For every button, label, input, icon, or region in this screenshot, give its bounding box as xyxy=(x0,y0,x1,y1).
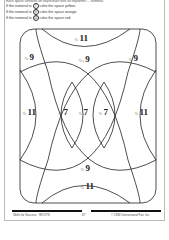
label-center-right-7: ·⅓·7 xyxy=(98,108,108,116)
footer-right: © 1992 Instructional Fair, Inc. xyxy=(111,213,150,217)
label-right-11: ·⅓·11 xyxy=(134,108,148,116)
label-center-left-7: ·⅓·7 xyxy=(58,108,68,116)
label-lower-center-9: ·⅓·9 xyxy=(80,164,90,172)
label-upper-left-9: ·⅓·9 xyxy=(24,53,34,61)
label-upper-right-9: ·⅓·9 xyxy=(128,54,138,62)
footer-left: Skills for Success · ROOTS xyxy=(13,213,50,217)
footer-bar-right xyxy=(91,210,161,212)
label-upper-center-9: ·⅓·+9 xyxy=(78,55,90,63)
label-center-7: ·⅓·7 xyxy=(78,108,88,116)
label-bottom-11: ·⅓·11 xyxy=(80,182,94,190)
label-left-11: ·⅓·11 xyxy=(22,108,36,116)
footer-page-number: 67 xyxy=(82,213,85,217)
footer-bar-left xyxy=(12,210,82,212)
label-top-11: ·⅓·11 xyxy=(74,34,88,42)
